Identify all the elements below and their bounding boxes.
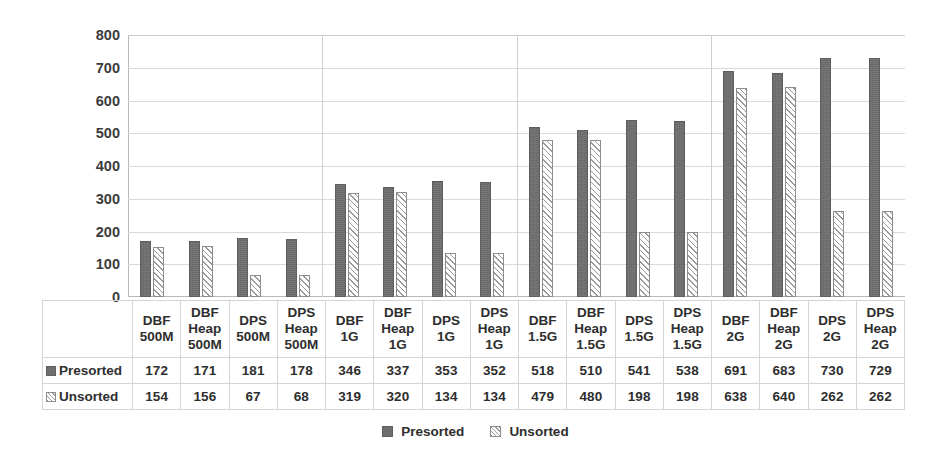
table-cell: 320 (374, 384, 422, 410)
bar-group (128, 35, 177, 297)
bar-unsorted (736, 88, 747, 297)
table-column-header: DPSHeap500M (277, 301, 325, 358)
chart-legend: PresortedUnsorted (0, 424, 951, 439)
table-column-header: DBFHeap500M (181, 301, 229, 358)
table-cell: 538 (663, 358, 711, 384)
bar-presorted (237, 238, 248, 297)
legend-swatch-icon (490, 426, 501, 437)
bar-group (371, 35, 420, 297)
table-column-header: DBFHeap2G (760, 301, 808, 358)
bar-unsorted (590, 140, 601, 297)
bar-presorted (723, 71, 734, 297)
table-cell: 337 (374, 358, 422, 384)
bar-group (565, 35, 614, 297)
bar-group (322, 35, 371, 297)
y-axis-tick-label: 100 (76, 257, 120, 272)
bar-presorted (140, 241, 151, 297)
bar-group (177, 35, 226, 297)
table-column-header: DBF2G (712, 301, 760, 358)
bar-unsorted (785, 87, 796, 297)
legend-item[interactable]: Presorted (382, 424, 464, 439)
bar-presorted (432, 181, 443, 297)
bar-unsorted (153, 247, 164, 297)
table-column-header: DPSHeap2G (856, 301, 904, 358)
table-cell: 518 (519, 358, 567, 384)
bar-presorted (335, 184, 346, 297)
series-swatch-icon (46, 366, 56, 376)
table-cell: 352 (470, 358, 518, 384)
table-cell: 730 (808, 358, 856, 384)
table-row: Unsorted15415667683193201341344794801981… (43, 384, 905, 410)
table-column-header: DPSHeap1.5G (663, 301, 711, 358)
series-swatch-icon (46, 392, 56, 402)
bar-unsorted (202, 246, 213, 297)
table-cell: 346 (326, 358, 374, 384)
data-table-body: Presorted1721711811783463373533525185105… (43, 358, 905, 410)
table-column-header: DBFHeap1.5G (567, 301, 615, 358)
data-table: DBF500MDBFHeap500MDPS500MDPSHeap500MDBF1… (42, 300, 905, 410)
table-cell: 178 (277, 358, 325, 384)
table-cell: 154 (133, 384, 181, 410)
table-cell: 262 (808, 384, 856, 410)
bar-presorted (286, 239, 297, 297)
y-axis-tick-label: 800 (76, 28, 120, 43)
table-cell: 729 (856, 358, 904, 384)
table-cell: 480 (567, 384, 615, 410)
table-cell: 262 (856, 384, 904, 410)
legend-label: Unsorted (509, 424, 568, 439)
table-column-header: DPS2G (808, 301, 856, 358)
table-cell: 638 (712, 384, 760, 410)
y-axis-tick-label: 700 (76, 61, 120, 76)
table-cell: 172 (133, 358, 181, 384)
table-column-header: DPSHeap1G (470, 301, 518, 358)
table-cell: 171 (181, 358, 229, 384)
y-axis-tick-label: 500 (76, 126, 120, 141)
table-header-row: DBF500MDBFHeap500MDPS500MDPSHeap500MDBF1… (43, 301, 905, 358)
legend-swatch-icon (382, 426, 393, 437)
bar-unsorted (348, 193, 359, 297)
bar-group (759, 35, 808, 297)
bar-presorted (480, 182, 491, 297)
bar-presorted (869, 58, 880, 297)
table-cell: 479 (519, 384, 567, 410)
data-table-header: DBF500MDBFHeap500MDPS500MDPSHeap500MDBF1… (43, 301, 905, 358)
bar-unsorted (542, 140, 553, 297)
table-cell: 640 (760, 384, 808, 410)
table-row-label: Presorted (43, 358, 133, 384)
bar-unsorted (687, 232, 698, 297)
table-cell: 198 (615, 384, 663, 410)
table-corner-cell (43, 301, 133, 358)
table-cell: 198 (663, 384, 711, 410)
bar-group (225, 35, 274, 297)
bar-group (468, 35, 517, 297)
table-column-header: DBF1G (326, 301, 374, 358)
y-axis-labels: 8007006005004003002001000 (72, 0, 120, 300)
bar-presorted (772, 73, 783, 297)
bar-unsorted (833, 211, 844, 297)
bar-groups (128, 35, 905, 297)
y-axis-tick-label: 600 (76, 94, 120, 109)
table-cell: 68 (277, 384, 325, 410)
bar-group (419, 35, 468, 297)
bar-presorted (189, 241, 200, 297)
bar-group (856, 35, 905, 297)
series-name: Unsorted (59, 389, 118, 404)
table-cell: 510 (567, 358, 615, 384)
bar-unsorted (250, 275, 261, 297)
table-column-header: DPS500M (229, 301, 277, 358)
bar-presorted (820, 58, 831, 297)
legend-label: Presorted (401, 424, 464, 439)
table-row: Presorted1721711811783463373533525185105… (43, 358, 905, 384)
table-cell: 683 (760, 358, 808, 384)
bar-unsorted (639, 232, 650, 297)
bar-group (711, 35, 760, 297)
y-axis-tick-label: 200 (76, 225, 120, 240)
table-cell: 691 (712, 358, 760, 384)
table-cell: 181 (229, 358, 277, 384)
legend-item[interactable]: Unsorted (490, 424, 568, 439)
table-column-header: DBF500M (133, 301, 181, 358)
bar-unsorted (299, 275, 310, 297)
plot-area (128, 35, 905, 297)
table-cell: 134 (470, 384, 518, 410)
table-column-header: DBFHeap1G (374, 301, 422, 358)
